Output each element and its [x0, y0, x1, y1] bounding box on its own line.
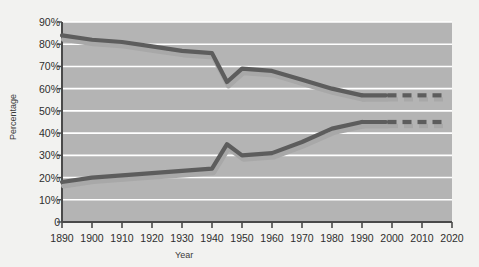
projection-dash-shadow-men: [404, 97, 413, 101]
projection-dash-shadow-women: [404, 124, 413, 128]
projection-dash-men: [403, 93, 412, 97]
line-chart: Percentage Year 010%20%30%40%50%60%70%80…: [0, 0, 479, 267]
plot-area: [0, 0, 479, 267]
projection-dash-women: [433, 120, 442, 124]
projection-dash-shadow-women: [389, 124, 398, 128]
projection-dash-men: [433, 93, 442, 97]
projection-dash-shadow-men: [389, 97, 398, 101]
projection-dash-shadow-women: [419, 124, 428, 128]
projection-dash-shadow-women: [434, 124, 443, 128]
projection-dash-men: [418, 93, 427, 97]
projection-dash-women: [403, 120, 412, 124]
projection-dash-shadow-men: [419, 97, 428, 101]
projection-dash-shadow-men: [434, 97, 443, 101]
projection-dash-women: [418, 120, 427, 124]
projection-dash-men: [388, 93, 397, 97]
projection-dash-women: [388, 120, 397, 124]
